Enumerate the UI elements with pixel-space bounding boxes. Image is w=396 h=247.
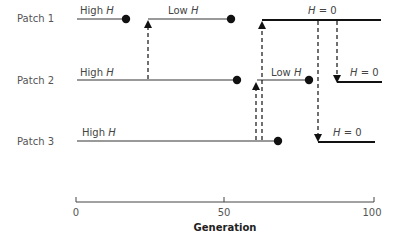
patch-2-label: Patch 2: [17, 75, 54, 86]
patch-3-track: High H H = 0: [77, 127, 375, 145]
x-axis: 0 50 100 Generation: [73, 197, 382, 233]
extinction-dot: [305, 76, 313, 84]
extinction-dot: [122, 15, 130, 23]
patch-1-track: High H Low H H = 0: [77, 5, 381, 23]
segment-label-high: High H: [80, 67, 114, 78]
tick-label-0: 0: [73, 207, 79, 218]
extinction-dot: [227, 15, 235, 23]
segment-label-zero: H = 0: [350, 67, 379, 78]
arrowhead-up-icon: [258, 21, 266, 29]
segment-label-zero: H = 0: [333, 127, 362, 138]
segment-label-low: Low H: [168, 5, 199, 16]
extinction-dot: [274, 137, 282, 145]
x-axis-title: Generation: [194, 222, 257, 233]
tick-label-100: 100: [362, 207, 381, 218]
segment-label-low: Low H: [271, 67, 302, 78]
arrowhead-up-icon: [252, 82, 260, 90]
segment-label-high: High H: [82, 127, 116, 138]
extinction-dot: [233, 76, 241, 84]
segment-label-zero: H = 0: [308, 5, 337, 16]
tick-label-50: 50: [218, 207, 231, 218]
patch-dynamics-diagram: Patch 1 Patch 2 Patch 3 High H Low H H =…: [0, 0, 396, 247]
arrowhead-up-icon: [144, 20, 152, 28]
arrowhead-down-icon: [314, 134, 322, 142]
patch-3-label: Patch 3: [17, 136, 54, 147]
patch-1-label: Patch 1: [17, 13, 54, 24]
segment-label-high: High H: [80, 5, 114, 16]
